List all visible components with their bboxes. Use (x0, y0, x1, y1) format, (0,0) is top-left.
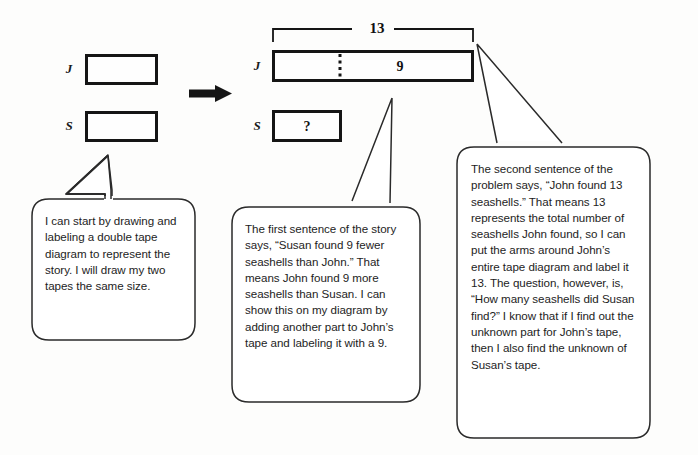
right-tape-box-john (272, 50, 474, 82)
bubble-drawing-tapes-tail-stroke (67, 156, 111, 199)
worked-example-figure: J S J 9 S ? 13 (0, 0, 698, 455)
transition-arrow-icon (189, 85, 232, 102)
right-tape-john-part-value: 9 (390, 60, 410, 74)
bubble-second-sentence-tail (477, 44, 562, 143)
left-tape-label-s: S (62, 119, 76, 132)
bubble-drawing-tapes-tail (66, 155, 112, 199)
bracket-total-label: 13 (355, 21, 399, 36)
right-tape-susan-value: ? (297, 120, 317, 134)
left-tape-box-susan (85, 111, 158, 142)
bubble-first-sentence-text: The first sentence of the story says, “S… (245, 221, 410, 351)
left-tape-label-j: J (62, 62, 76, 75)
bubble-drawing-tapes-text: I can start by drawing and labeling a do… (45, 213, 184, 294)
right-tape-label-j: J (250, 59, 264, 72)
left-tape-box-john (85, 54, 158, 85)
bubble-first-sentence-tail (352, 98, 392, 203)
bubble-second-sentence-text: The second sentence of the problem says,… (471, 161, 641, 373)
bubble-drawing-tapes-tail-fill (70, 158, 113, 200)
right-tape-label-s: S (250, 119, 264, 132)
